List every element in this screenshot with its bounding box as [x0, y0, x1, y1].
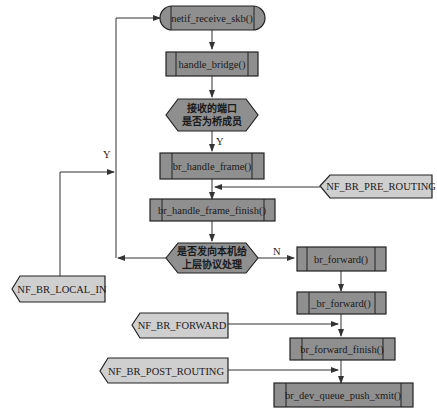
node-br-forward[interactable]: br_forward(): [297, 247, 386, 271]
hook-label: NF_BR_FORWARD: [138, 320, 227, 331]
hook-nf-br-post-routing[interactable]: NF_BR_POST_ROUTING: [100, 358, 228, 383]
decision-label-line1: 是否发向本机给: [176, 245, 247, 257]
decision-label-line2: 上层协议处理: [182, 258, 242, 270]
node-br-handle-frame[interactable]: br_handle_frame(): [160, 153, 264, 179]
node-handle-bridge[interactable]: handle_bridge(): [166, 52, 258, 76]
hook-label: NF_BR_POST_ROUTING: [108, 366, 225, 377]
node-label: br_dev_queue_push_xmit(): [285, 390, 402, 402]
hook-label: NF_BR_PRE_ROUTING: [326, 181, 436, 192]
node-netif-receive-skb[interactable]: netif_receive_skb(): [160, 6, 265, 30]
hook-nf-br-forward[interactable]: NF_BR_FORWARD: [132, 313, 228, 338]
flowchart: netif_receive_skb() handle_bridge() 接收的端…: [0, 0, 437, 413]
node-label: handle_bridge(): [178, 59, 246, 71]
hook-label: NF_BR_LOCAL_IN: [17, 284, 107, 295]
node-label: br_handle_frame(): [173, 161, 252, 173]
node-label: _br_forward(): [310, 298, 371, 310]
node-label: br_handle_frame_finish(): [158, 205, 266, 217]
node-br-forward-finish[interactable]: br_forward_finish(): [290, 338, 395, 360]
node-underscore-br-forward[interactable]: _br_forward(): [297, 292, 386, 314]
node-br-dev-queue-push-xmit[interactable]: br_dev_queue_push_xmit(): [274, 383, 413, 407]
node-label: br_forward(): [314, 254, 369, 266]
node-label: br_forward_finish(): [300, 344, 384, 356]
decision-label-line1: 接收的端口: [187, 102, 237, 114]
decision-label-line2: 是否为桥成员: [181, 115, 242, 127]
node-label: netif_receive_skb(): [171, 13, 253, 25]
label-no: N: [273, 246, 281, 257]
label-yes-local: Y: [103, 149, 111, 160]
label-yes: Y: [216, 136, 224, 147]
decision-bridge-member[interactable]: 接收的端口 是否为桥成员: [166, 99, 258, 131]
node-br-handle-frame-finish[interactable]: br_handle_frame_finish(): [150, 199, 275, 221]
decision-local-delivery[interactable]: 是否发向本机给 上层协议处理: [166, 243, 258, 273]
hook-nf-br-pre-routing[interactable]: NF_BR_PRE_ROUTING: [320, 175, 436, 198]
hook-nf-br-local-in[interactable]: NF_BR_LOCAL_IN: [12, 276, 107, 302]
